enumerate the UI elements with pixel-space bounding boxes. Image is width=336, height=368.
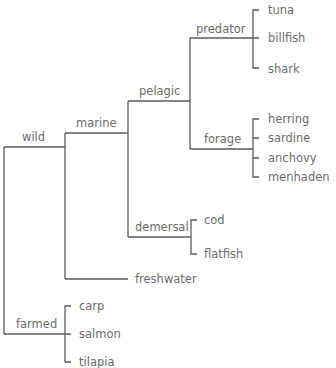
edge-farmed-bracket (65, 306, 71, 362)
leaf-salmon: salmon (79, 327, 121, 341)
node-forage: forage (204, 132, 241, 146)
node-farmed: farmed (16, 317, 57, 331)
leaf-tuna: tuna (268, 3, 294, 17)
leaf-tilapia: tilapia (79, 355, 115, 368)
leaf-cod: cod (204, 213, 225, 227)
node-demersal: demersal (135, 220, 189, 234)
leaf-herring: herring (268, 112, 309, 126)
leaf-menhaden: menhaden (268, 170, 330, 184)
node-predator: predator (196, 22, 246, 36)
leaf-shark: shark (268, 62, 300, 76)
node-pelagic: pelagic (139, 84, 180, 98)
leaf-billfish: billfish (268, 31, 305, 45)
edge-demersal-bracket (191, 220, 197, 254)
fish-taxonomy-tree: wild marine freshwater pelagic demersal … (0, 0, 336, 368)
leaf-sardine: sardine (268, 131, 310, 145)
edge-predator-bracket (253, 10, 259, 68)
leaf-carp: carp (79, 299, 104, 313)
edge-forage-bracket (253, 119, 259, 177)
leaf-flatfish: flatfish (204, 247, 243, 261)
node-freshwater: freshwater (135, 272, 197, 286)
node-marine: marine (76, 116, 117, 130)
node-wild: wild (22, 130, 45, 144)
leaf-anchovy: anchovy (268, 151, 317, 165)
